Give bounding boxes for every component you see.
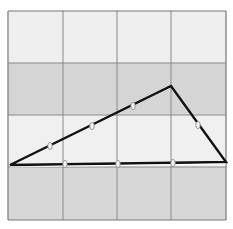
tick-marker-ab [48,142,52,149]
triangle-grid-diagram [0,0,233,229]
tick-marker-ab [131,102,135,109]
tick-marker-ac [63,160,67,167]
tick-marker-ac [171,159,175,166]
tick-marker-ac [116,160,120,167]
tick-marker-bc [196,121,200,128]
tick-marker-ab [90,122,94,129]
